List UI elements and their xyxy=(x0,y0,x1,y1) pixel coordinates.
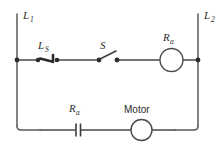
circuit-diagram-figure: L 1 L 2 L xyxy=(0,0,222,147)
motor-group[interactable]: Motor xyxy=(124,104,152,141)
control-rung-group: L S S R a xyxy=(15,31,201,72)
switch-group[interactable]: S xyxy=(97,39,120,62)
motor-label: Motor xyxy=(124,104,150,115)
switch-right-terminal-dot xyxy=(115,58,120,63)
left-rail-bottom-corner xyxy=(17,126,40,130)
limit-switch-right-terminal-dot xyxy=(55,58,60,63)
relay-coil-label: R xyxy=(162,31,170,43)
motor-circle-icon xyxy=(131,120,152,141)
left-power-rail-group: L 1 xyxy=(17,9,40,130)
junction-dot-right-control-rung xyxy=(196,58,201,63)
open-switch-icon xyxy=(100,51,116,59)
relay-contact-label: R xyxy=(68,102,76,114)
limit-switch-icon xyxy=(40,59,52,62)
left-rail-label: L xyxy=(22,9,29,21)
right-power-rail-group: L 2 xyxy=(175,9,215,130)
circuit-svg-canvas: L 1 L 2 L xyxy=(0,0,222,147)
limit-switch-label: L xyxy=(37,39,44,51)
relay-coil-group[interactable]: R a xyxy=(160,31,183,72)
junction-dot-left-control-rung xyxy=(15,58,20,63)
power-rung-group: R a Motor xyxy=(40,102,175,141)
relay-contact-label-subscript: a xyxy=(76,108,80,117)
coil-circle-icon xyxy=(160,49,183,72)
left-rail-label-subscript: 1 xyxy=(30,15,34,24)
relay-coil-label-subscript: a xyxy=(170,37,174,46)
right-rail-label-subscript: 2 xyxy=(211,15,215,24)
relay-contact-group[interactable]: R a xyxy=(68,102,81,137)
limit-switch-group[interactable]: L S xyxy=(36,39,60,62)
limit-switch-label-subscript: S xyxy=(45,45,49,54)
right-rail-bottom-corner xyxy=(175,126,198,130)
switch-label: S xyxy=(100,39,106,51)
right-rail-label: L xyxy=(203,9,210,21)
